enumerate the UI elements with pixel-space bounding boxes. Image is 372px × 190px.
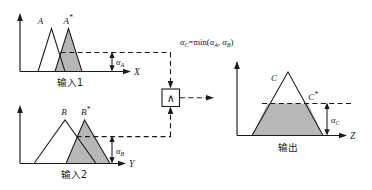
input2-panel: B B* αB Y 输入2: [17, 105, 171, 180]
output-alpha-dimension: [324, 103, 329, 136]
output-set-c-star-label: C*: [308, 90, 318, 102]
figure-root: A A* αA X 输入1: [0, 0, 372, 190]
input2-alpha-label: αB: [116, 146, 125, 157]
input1-to-gate-arrowhead: [168, 81, 174, 89]
input1-alpha-label: αA: [116, 57, 125, 68]
input2-alpha-dimension: [109, 136, 114, 164]
input1-y-axis: [17, 13, 23, 72]
input1-axis-label: X: [133, 67, 141, 77]
input2-axis-label: Y: [129, 159, 136, 169]
input2-set-b-star-label: B*: [81, 105, 91, 117]
output-set-c-label: C: [271, 73, 278, 83]
input1-x-axis-arrowhead: [123, 69, 131, 75]
input1-y-axis-arrowhead: [17, 13, 23, 21]
fuzzy-inference-diagram: A A* αA X 输入1: [0, 0, 372, 190]
input1-alpha-arrow-down: [109, 65, 114, 72]
output-set-c-star-shape: [252, 104, 323, 136]
output-y-axis-arrowhead: [234, 61, 240, 69]
min-operator-symbol: ∧: [167, 92, 175, 104]
input1-caption: 输入1: [57, 77, 83, 88]
min-formula: αC=min(αA, αB): [180, 37, 233, 48]
input2-set-b-star-shape: [66, 120, 110, 164]
input1-set-a-star-shape: [55, 29, 82, 72]
gate-to-output-arrowhead: [206, 95, 214, 101]
input1-panel: A A* αA X 输入1: [17, 13, 171, 88]
input2-set-b-label: B: [61, 107, 67, 117]
output-y-axis: [234, 61, 240, 136]
output-panel: C C* αC Z 输出: [234, 61, 356, 153]
output-axis-label: Z: [350, 131, 356, 141]
input2-y-axis: [17, 105, 23, 164]
input2-y-axis-arrowhead: [17, 105, 23, 113]
output-x-axis-arrowhead: [339, 133, 347, 139]
output-alpha-label: αC: [331, 115, 341, 126]
input1-set-a-label: A: [37, 16, 44, 26]
input1-alpha-dimension: [109, 51, 114, 71]
input1-set-a-star-label: A*: [62, 13, 73, 25]
input2-to-gate-arrowhead: [168, 107, 174, 115]
gate-to-output-connector: [180, 95, 214, 101]
output-caption: 输出: [278, 142, 298, 153]
input2-x-axis-arrowhead: [118, 161, 126, 167]
input2-caption: 输入2: [61, 169, 87, 180]
output-alpha-arrow-down: [324, 129, 329, 136]
min-operator-gate[interactable]: ∧: [162, 89, 180, 107]
